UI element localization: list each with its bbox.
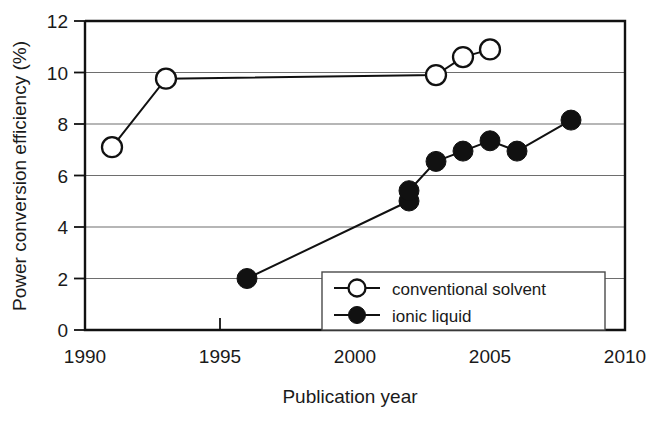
legend-label-conventional-solvent: conventional solvent: [392, 280, 546, 299]
chart-svg: 12 10 8 6 4 2 0 1990 1995 2000 2005 2010…: [0, 0, 661, 445]
data-point-ionic-2008: [561, 110, 581, 130]
y-tick-label-0: 0: [57, 320, 68, 341]
data-point-conventional-1993: [156, 69, 176, 89]
x-tick-label-1995: 1995: [199, 346, 241, 367]
chart-figure: 12 10 8 6 4 2 0 1990 1995 2000 2005 2010…: [0, 0, 661, 445]
x-tick-label-1990: 1990: [64, 346, 106, 367]
legend-item-ionic-liquid[interactable]: ionic liquid: [334, 307, 471, 327]
data-point-conventional-2005: [480, 39, 500, 59]
x-tick-label-2005: 2005: [469, 346, 511, 367]
data-point-ionic-2002-b: [399, 181, 419, 201]
y-axis-title: Power conversion efficiency (%): [9, 41, 30, 311]
data-point-ionic-1996: [237, 269, 257, 289]
x-tick-label-2010: 2010: [604, 346, 646, 367]
y-tick-label-10: 10: [47, 63, 68, 84]
x-tick-label-2000: 2000: [334, 346, 376, 367]
legend-marker-filled-circle-icon: [349, 307, 366, 324]
data-point-conventional-2004: [453, 47, 473, 67]
y-tick-label-8: 8: [57, 114, 68, 135]
data-point-conventional-1991: [102, 137, 122, 157]
data-point-conventional-2003: [426, 65, 446, 85]
y-tick-label-4: 4: [57, 217, 68, 238]
legend: conventional solvent ionic liquid: [322, 272, 605, 330]
legend-marker-open-circle-icon: [349, 280, 366, 297]
data-point-ionic-2005: [480, 131, 500, 151]
y-tick-label-12: 12: [47, 11, 68, 32]
y-tick-marks: [74, 21, 85, 330]
legend-label-ionic-liquid: ionic liquid: [392, 307, 471, 326]
y-tick-label-2: 2: [57, 269, 68, 290]
data-point-ionic-2004: [453, 141, 473, 161]
x-axis-title: Publication year: [282, 386, 418, 407]
y-tick-label-6: 6: [57, 166, 68, 187]
y-tick-labels: 12 10 8 6 4 2 0: [47, 11, 69, 341]
data-point-ionic-2003: [426, 151, 446, 171]
data-point-ionic-2006: [507, 141, 527, 161]
x-tick-labels: 1990 1995 2000 2005 2010: [64, 346, 646, 367]
